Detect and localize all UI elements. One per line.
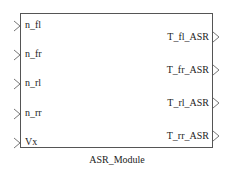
output-port-arrow-icon <box>212 97 221 109</box>
output-port-arrow-icon <box>212 130 221 142</box>
input-port-n-fl: n_fl <box>25 19 41 31</box>
input-port-n-rl: n_rl <box>25 77 41 89</box>
output-port-t-fl-asr: T_fl_ASR <box>167 31 209 43</box>
output-port-t-fr-asr: T_fr_ASR <box>167 64 209 76</box>
input-port-arrow-icon <box>13 108 22 120</box>
input-port-arrow-icon <box>13 137 22 149</box>
block-name-caption: ASR_Module <box>0 154 234 165</box>
input-port-arrow-icon <box>13 49 22 61</box>
input-port-arrow-icon <box>13 78 22 90</box>
output-port-arrow-icon <box>212 64 221 76</box>
output-port-arrow-icon <box>212 31 221 43</box>
input-port-vx: Vx <box>25 136 37 148</box>
input-port-n-fr: n_fr <box>25 48 42 60</box>
output-port-t-rl-asr: T_rl_ASR <box>167 97 209 109</box>
input-port-n-rr: n_rr <box>25 107 42 119</box>
output-port-t-rr-asr: T_rr_ASR <box>167 130 209 142</box>
input-port-arrow-icon <box>13 20 22 32</box>
